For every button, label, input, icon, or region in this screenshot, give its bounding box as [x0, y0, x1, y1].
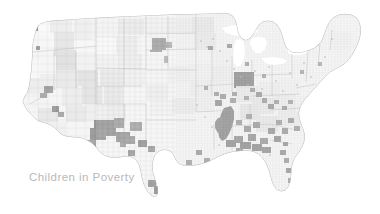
- map-title-label: Children in Poverty: [29, 171, 135, 183]
- choropleth-figure: Children in Poverty heatmap United State…: [0, 0, 380, 214]
